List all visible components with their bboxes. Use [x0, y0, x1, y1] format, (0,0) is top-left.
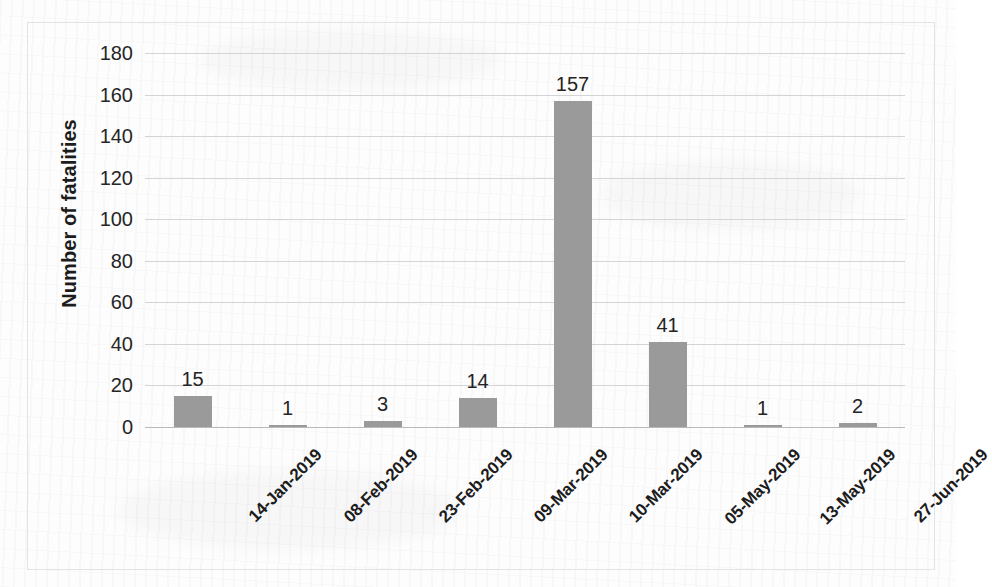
gridline	[145, 261, 905, 262]
gridline	[145, 178, 905, 179]
bar[interactable]	[174, 396, 212, 427]
bar-data-label: 3	[343, 394, 423, 414]
bar[interactable]	[554, 101, 592, 427]
bar[interactable]	[839, 423, 877, 427]
y-axis-tick-label: 140	[100, 126, 133, 146]
bar-data-label: 41	[628, 315, 708, 335]
bar[interactable]	[364, 421, 402, 427]
y-axis-title-label: Number of fatalities	[58, 119, 81, 308]
y-axis-tick-label: 60	[111, 292, 133, 312]
y-axis-tick-label: 0	[122, 417, 133, 437]
gridline	[145, 53, 905, 54]
y-axis-tick-label: 40	[111, 334, 133, 354]
y-axis-tick-label: 20	[111, 375, 133, 395]
y-axis-title: Number of fatalities	[52, 0, 86, 427]
gridline	[145, 344, 905, 345]
gridline	[145, 427, 905, 428]
gridline	[145, 95, 905, 96]
y-axis-tick-label: 80	[111, 251, 133, 271]
bar[interactable]	[269, 425, 307, 427]
bar[interactable]	[744, 425, 782, 427]
y-axis-tick-label: 180	[100, 43, 133, 63]
bar[interactable]	[459, 398, 497, 427]
y-axis-tick-label: 100	[100, 209, 133, 229]
bar-data-label: 2	[818, 396, 898, 416]
gridline	[145, 219, 905, 220]
bar-data-label: 157	[533, 74, 613, 94]
gridline	[145, 385, 905, 386]
y-axis-tick-label: 120	[100, 168, 133, 188]
gridline	[145, 136, 905, 137]
plot-area	[145, 53, 905, 427]
bar-data-label: 1	[248, 398, 328, 418]
bar[interactable]	[649, 342, 687, 427]
gridline	[145, 302, 905, 303]
bar-data-label: 14	[438, 371, 518, 391]
bar-data-label: 15	[153, 369, 233, 389]
y-axis-tick-label: 160	[100, 85, 133, 105]
bar-data-label: 1	[723, 398, 803, 418]
